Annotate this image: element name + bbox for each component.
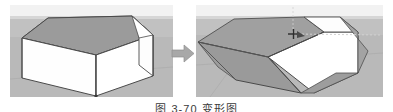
before-after-figure: 图 3-70 变形图 (0, 0, 393, 112)
viewport-after (196, 5, 383, 97)
viewport-before (10, 5, 173, 97)
right-arrow-icon (171, 43, 195, 64)
arrow-shape (172, 45, 194, 62)
sky (196, 5, 383, 16)
model-render-after (196, 5, 383, 97)
sky (10, 5, 173, 16)
model-render-before (10, 5, 173, 97)
figure-caption: 图 3-70 变形图 (0, 103, 393, 112)
